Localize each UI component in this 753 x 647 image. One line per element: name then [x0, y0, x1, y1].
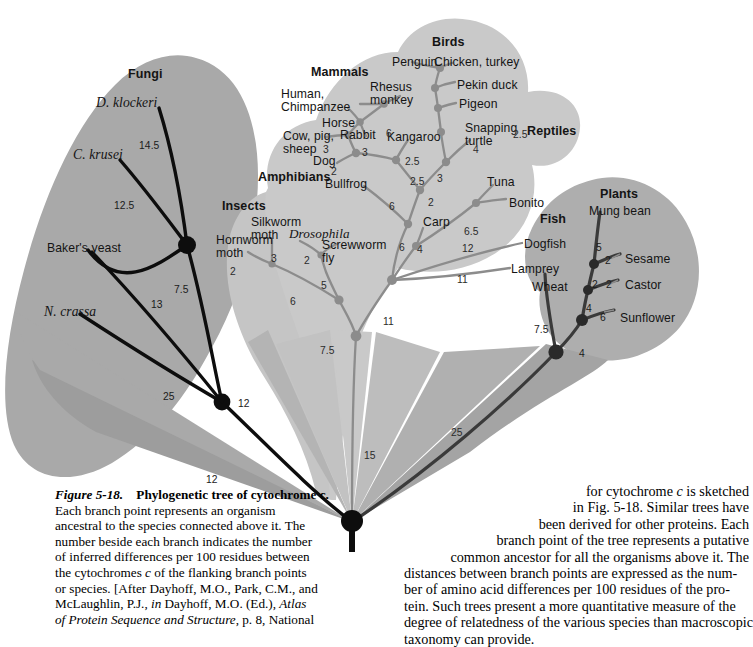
- group-label-fungi: Fungi: [128, 68, 163, 82]
- branch-number-12-5: 12.5: [114, 200, 134, 211]
- caption-line: of inferred differences per 100 residues…: [55, 549, 355, 565]
- caption-line: the cytochromes c of the flanking branch…: [55, 565, 355, 581]
- species-rabbit: Rabbit: [340, 129, 376, 142]
- branch-number-2-dog: 2: [331, 166, 337, 177]
- species-tuna: Tuna: [487, 176, 515, 189]
- branch-number-2-5-birdladder: 2.5: [513, 129, 528, 140]
- species-rhesus-monkey: Rhesus monkey: [370, 81, 413, 107]
- node-placental: [352, 149, 360, 157]
- caption-line: ancestral to the species connected above…: [55, 518, 355, 534]
- group-label-insects: Insects: [222, 200, 266, 214]
- body-text-line: tein. Such trees present a more quantita…: [404, 598, 749, 614]
- branch-number-4-plantroot: 4: [579, 348, 585, 359]
- node-plant-3: [589, 259, 599, 269]
- caption-line: of Protein Sequence and Structure, p. 8,…: [55, 612, 355, 628]
- body-text-line: branch point of the tree represents a pu…: [404, 532, 749, 548]
- branch-number-2-5-amniote: 2.5: [410, 176, 425, 187]
- group-label-fish: Fish: [540, 213, 566, 227]
- branch-number-2-carp: 2: [428, 197, 434, 208]
- group-label-plants: Plants: [600, 188, 638, 202]
- group-label-reptiles: Reptiles: [527, 125, 576, 139]
- branch-number-25-left: 25: [163, 391, 175, 402]
- node-birdrept: [442, 158, 450, 166]
- branch-number-4-turtle: 4: [473, 144, 479, 155]
- body-text-line: in Fig. 5-18. Similar trees have: [404, 499, 749, 515]
- branch-number-3-cowpigsheep: 3: [323, 144, 329, 155]
- figure-title: Phylogenetic tree of cytochrome c.: [136, 487, 329, 502]
- group-label-mammals: Mammals: [311, 66, 369, 80]
- branch-number-14-5: 14.5: [139, 140, 159, 151]
- branch-number-2-sesame: 2: [605, 255, 611, 266]
- branch-number-6-bullfrog: 6: [389, 201, 395, 212]
- node-mammal: [392, 156, 400, 164]
- branch-number-2-wheatside: 2: [592, 279, 598, 290]
- branch-number-6-rabbit: 6: [386, 128, 392, 139]
- branch-number-7-5-fungi: 7.5: [174, 284, 189, 295]
- figure-caption-body: Each branch point represents an organism…: [55, 503, 355, 628]
- species-kangaroo: Kangaroo: [387, 131, 441, 144]
- node-animal-fan: [351, 331, 362, 342]
- species-pekin-duck: Pekin duck: [457, 79, 518, 92]
- branch-number-11-lamprey: 11: [457, 274, 468, 285]
- caption-line: number beside each branch indicates the …: [55, 534, 355, 550]
- branch-number-4-plants: 4: [586, 303, 592, 314]
- species-carp: Carp: [423, 216, 450, 229]
- branch-number-12-fungi: 12: [238, 398, 250, 409]
- figure-number: Figure 5-18.: [55, 487, 123, 502]
- body-text-line: degree of relatedness of the various spe…: [404, 614, 749, 630]
- species-bullfrog: Bullfrog: [325, 178, 367, 191]
- node-plant-base: [548, 344, 563, 359]
- branch-number-13: 13: [151, 299, 163, 310]
- caption-line: Each branch point represents an organism: [55, 503, 355, 519]
- body-text-line: distances between branch points are expr…: [404, 565, 749, 581]
- species-d-klockeri: D. klockeri: [96, 96, 158, 111]
- species-human-chimpanzee: Human, Chimpanzee: [281, 88, 350, 114]
- branch-number-2-5-kangaroo: 2.5: [405, 156, 420, 167]
- node-fungi-upper: [178, 236, 196, 254]
- node-bird2: [434, 104, 442, 112]
- species-c-krusei: C. krusei: [73, 148, 123, 163]
- branch-number-25-right: 25: [451, 427, 463, 438]
- branch-number-6-moths: 6: [290, 296, 296, 307]
- species-bakers-yeast: Baker's yeast: [47, 242, 121, 255]
- branch-number-2-castor: 2: [606, 279, 612, 290]
- branch-number-12-dogfish: 12: [462, 243, 474, 254]
- branch-number-2-hornworm: 2: [230, 266, 236, 277]
- branch-number-6-fish: 6: [399, 242, 405, 253]
- node-insect: [334, 295, 343, 304]
- branch-number-3-mammal: 3: [362, 147, 368, 158]
- species-dogfish: Dogfish: [524, 238, 566, 251]
- branch-number-7-5-wheat: 7.5: [534, 324, 549, 335]
- branch-number-11-insects: 11: [383, 316, 394, 327]
- branch-number-4-fish: 4: [417, 244, 423, 255]
- branch-number-2-drosophila: 2: [304, 255, 310, 266]
- branch-number-15-trunk: 15: [364, 450, 376, 461]
- node-tetrapod: [404, 220, 412, 228]
- species-penguin: Penguin: [392, 56, 437, 69]
- caption-line: McLaughlin, P.J., in Dayhoff, M.O. (Ed.)…: [55, 596, 355, 612]
- species-screwworm-fly: Screwworm fly: [322, 239, 387, 265]
- body-text-right-column: for cytochrome c is sketchedin Fig. 5-18…: [404, 483, 749, 647]
- body-text-line: for cytochrome c is sketched: [404, 483, 749, 499]
- branch-number-5-mungbean: 5: [596, 242, 602, 253]
- branch-number-6-5-tuna: 6.5: [464, 226, 479, 237]
- species-pigeon: Pigeon: [459, 98, 498, 111]
- species-sesame: Sesame: [625, 253, 670, 266]
- species-wheat: Wheat: [532, 281, 568, 294]
- caption-line: or species. [After Dayhoff, M.O., Park, …: [55, 581, 355, 597]
- species-chicken-turkey: Chicken, turkey: [434, 56, 520, 69]
- branch-number-5-flies: 5: [321, 280, 327, 291]
- species-bonito: Bonito: [509, 197, 544, 210]
- node-tunabonito: [472, 199, 480, 207]
- species-mung-bean: Mung bean: [589, 205, 651, 218]
- species-n-crassa: N. crassa: [44, 305, 96, 320]
- body-text-line: common ancestor for all the organisms ab…: [404, 549, 749, 565]
- species-lamprey: Lamprey: [511, 263, 559, 276]
- branch-number-7-5-insects: 7.5: [320, 345, 335, 356]
- body-text-line: taxonomy can provide.: [404, 631, 749, 647]
- group-label-amphibians: Amphibians: [258, 171, 331, 185]
- node-mam3: [356, 118, 364, 126]
- node-bird3: [431, 84, 439, 92]
- species-castor: Castor: [625, 279, 662, 292]
